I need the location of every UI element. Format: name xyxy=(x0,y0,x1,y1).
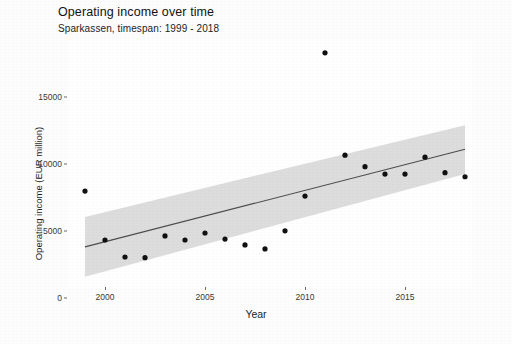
data-point xyxy=(362,164,367,169)
data-point xyxy=(382,171,387,176)
y-tick-mark xyxy=(64,164,67,165)
data-point xyxy=(102,237,107,242)
x-tick-mark xyxy=(105,287,106,290)
data-point xyxy=(462,174,467,179)
data-point xyxy=(162,233,167,238)
data-point xyxy=(242,242,247,247)
data-point xyxy=(342,153,347,158)
chart-figure: Operating income over time Sparkassen, t… xyxy=(0,0,512,344)
x-tick-mark xyxy=(305,287,306,290)
data-point xyxy=(82,188,87,193)
y-tick-mark xyxy=(64,298,67,299)
plot-area xyxy=(0,0,512,344)
x-tick-mark xyxy=(205,287,206,290)
data-point xyxy=(282,228,287,233)
x-tick-mark xyxy=(405,287,406,290)
y-tick-mark xyxy=(64,97,67,98)
regression-line xyxy=(85,149,465,247)
data-point xyxy=(322,50,327,55)
data-point xyxy=(422,155,427,160)
data-point xyxy=(122,254,127,259)
confidence-band-shape xyxy=(85,125,465,277)
data-point xyxy=(142,255,147,260)
trend-line xyxy=(85,149,465,247)
data-point xyxy=(202,230,207,235)
y-tick-mark xyxy=(64,231,67,232)
confidence-band xyxy=(85,125,465,277)
data-point xyxy=(442,170,447,175)
data-point xyxy=(182,237,187,242)
data-point xyxy=(222,236,227,241)
data-point xyxy=(262,246,267,251)
data-point xyxy=(402,171,407,176)
data-point xyxy=(302,193,307,198)
